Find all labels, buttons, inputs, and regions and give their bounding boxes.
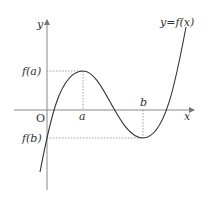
fb-label: f(b) — [21, 132, 42, 145]
a-label: a — [79, 110, 86, 123]
fa-label: f(a) — [21, 65, 41, 78]
cubic-graph: y x O a b f(a) f(b) y=f(x) — [0, 0, 219, 214]
origin-label: O — [36, 112, 45, 125]
x-axis-label: x — [184, 110, 191, 123]
cubic-curve — [40, 27, 186, 172]
b-label: b — [140, 96, 147, 109]
y-axis-label: y — [36, 18, 44, 31]
curve-label: y=f(x) — [159, 16, 194, 29]
